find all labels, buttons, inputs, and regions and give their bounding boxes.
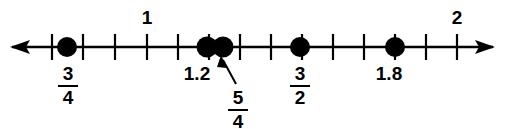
fraction-numerator: 5 [231, 88, 246, 109]
fraction-denominator: 4 [231, 111, 246, 129]
point-five-quarters [213, 37, 234, 58]
point-three-quarters [57, 37, 77, 57]
axis-label-one: 1 [142, 8, 153, 27]
fraction-denominator: 2 [293, 87, 308, 108]
point-label-one-point-two: 1.2 [184, 64, 210, 83]
point-label-one-point-eight: 1.8 [376, 64, 402, 83]
fraction-denominator: 4 [61, 87, 76, 108]
fraction-numerator: 3 [61, 64, 76, 85]
point-one-point-eight [385, 37, 405, 57]
number-line-figure: 1 2 3 4 1.2 5 4 3 2 1.8 [0, 0, 505, 129]
point-three-halves [290, 37, 310, 57]
point-label-three-halves: 3 2 [290, 64, 310, 108]
callout-arrow-five-quarters [217, 55, 236, 84]
fraction-numerator: 3 [293, 64, 308, 85]
point-label-three-quarters: 3 4 [58, 64, 78, 108]
axis-label-two: 2 [452, 8, 463, 27]
point-label-five-quarters: 5 4 [228, 88, 248, 129]
